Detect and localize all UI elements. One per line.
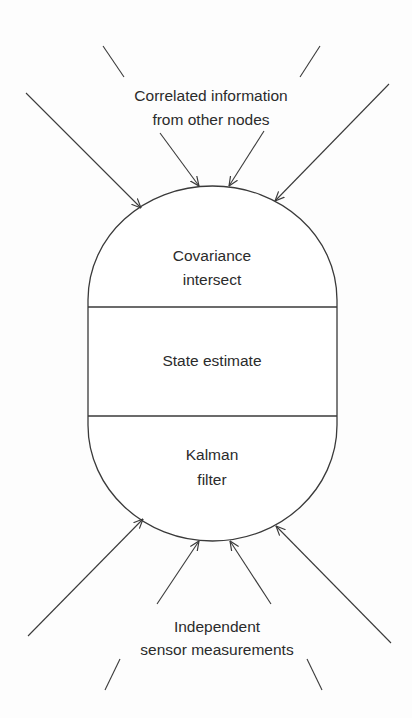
- arrow-top-inner-right: [229, 131, 264, 186]
- arrow-bottom-inner-left: [157, 541, 199, 604]
- arrow-bottom-outer-right: [276, 526, 391, 643]
- diagram-canvas: Correlated information from other nodes …: [0, 0, 412, 718]
- section-state-estimate: State estimate: [162, 352, 261, 369]
- arrow-top-outer-right: [275, 84, 389, 201]
- stub-bottom-left: [105, 659, 120, 690]
- section-covariance-intersect-line2: intersect: [183, 271, 242, 288]
- stub-top-left: [103, 46, 124, 77]
- top-label-line2: from other nodes: [152, 111, 269, 128]
- arrow-top-outer-left: [26, 93, 141, 208]
- top-label-line1: Correlated information: [134, 87, 287, 104]
- arrow-bottom-inner-right: [230, 541, 271, 604]
- section-kalman-filter-line1: Kalman: [186, 446, 239, 463]
- stub-top-right: [300, 46, 320, 77]
- arrow-top-inner-left: [160, 133, 199, 186]
- bottom-label-line1: Independent: [174, 618, 261, 635]
- section-kalman-filter-line2: filter: [197, 471, 226, 488]
- diagram-svg: Correlated information from other nodes …: [0, 0, 412, 718]
- bottom-label-line2: sensor measurements: [140, 641, 294, 658]
- stub-bottom-right: [307, 659, 322, 690]
- arrow-bottom-outer-left: [28, 519, 143, 636]
- section-covariance-intersect-line1: Covariance: [173, 247, 251, 264]
